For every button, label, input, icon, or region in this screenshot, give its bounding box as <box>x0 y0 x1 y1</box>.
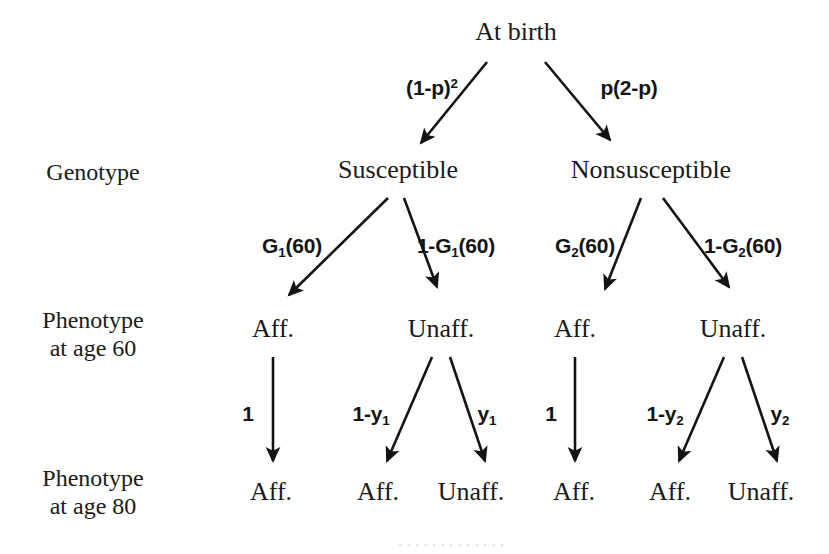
node-at-birth: At birth <box>475 18 557 45</box>
edge-label-text: (1-p) <box>406 76 451 99</box>
edge-label-prefix: G <box>262 234 278 257</box>
edge-label-aff2-stays-aff: 1 <box>545 402 556 426</box>
edge-label-subscript: 2 <box>676 413 683 428</box>
arrow-unaff1-aff <box>387 357 432 461</box>
arrow-unaff2-aff <box>679 357 724 461</box>
stage-label-line-2: at age 60 <box>42 334 143 362</box>
node-phenotype80-aff-2: Aff. <box>357 478 399 505</box>
edge-label-suffix: (60) <box>746 234 783 257</box>
edge-label-suffix: (60) <box>578 234 615 257</box>
edge-label-suffix: (60) <box>285 234 322 257</box>
node-phenotype80-aff-1: Aff. <box>250 478 292 505</box>
edge-label-unaff2-stays-unaff: y2 <box>771 402 790 428</box>
stage-label-phenotype-60: Phenotypeat age 60 <box>42 306 143 363</box>
node-nonsusceptible: Nonsusceptible <box>571 156 731 183</box>
figure-canvas: At birth (1-p)2 p(2-p) Genotype Suscepti… <box>0 0 829 554</box>
scan-artifact-strip: . . . . . . . . . . . . . <box>0 542 829 554</box>
edge-label-text: p(2-p) <box>600 76 657 99</box>
node-phenotype80-aff-4: Aff. <box>649 478 691 505</box>
stage-label-line-2: at age 80 <box>42 492 143 520</box>
edge-label-superscript: 2 <box>451 76 458 91</box>
edge-label-susceptible-to-aff: G1(60) <box>262 234 322 260</box>
node-phenotype60-unaff-2: Unaff. <box>700 315 767 342</box>
node-phenotype60-aff-2: Aff. <box>554 315 596 342</box>
edge-label-prefix: 1-y <box>646 402 676 425</box>
node-phenotype60-aff-1: Aff. <box>252 315 294 342</box>
edge-label-subscript: 1 <box>489 413 496 428</box>
edge-label-unaff2-to-aff: 1-y2 <box>646 402 683 428</box>
node-susceptible: Susceptible <box>338 156 458 183</box>
edge-label-prefix: 1 <box>242 402 253 425</box>
edge-label-subscript: 2 <box>782 413 789 428</box>
stage-label-phenotype-80: Phenotypeat age 80 <box>42 464 143 521</box>
edge-label-nonsusceptible-to-unaff: 1-G2(60) <box>704 234 782 260</box>
arrow-birth-nonsusceptible <box>545 62 610 140</box>
stage-label-genotype: Genotype <box>46 158 139 186</box>
edge-label-suffix: (60) <box>459 234 496 257</box>
edge-label-prefix: y <box>771 402 782 425</box>
scan-artifact-text: . . . . . . . . . . . . . <box>398 542 504 551</box>
edge-label-subscript: 1 <box>382 413 389 428</box>
node-phenotype80-aff-3: Aff. <box>553 478 595 505</box>
edge-label-unaff1-stays-unaff: y1 <box>478 402 497 428</box>
node-phenotype80-unaff-1: Unaff. <box>438 478 505 505</box>
edge-label-susceptible-to-unaff: 1-G1(60) <box>417 234 495 260</box>
edge-label-prefix: 1-G <box>417 234 451 257</box>
stage-label-line-1: Phenotype <box>42 307 143 333</box>
edge-label-subscript: 2 <box>738 245 745 260</box>
edge-label-prefix: G <box>555 234 571 257</box>
arrow-birth-susceptible <box>421 62 487 143</box>
edge-label-nonsusceptible-to-aff: G2(60) <box>555 234 615 260</box>
edge-label-prefix: y <box>478 402 489 425</box>
edge-label-prefix: 1-G <box>704 234 738 257</box>
edge-label-unaff1-to-aff: 1-y1 <box>352 402 389 428</box>
stage-label-line-1: Phenotype <box>42 465 143 491</box>
stage-label-line-1: Genotype <box>46 159 139 185</box>
edge-label-aff1-stays-aff: 1 <box>242 402 253 426</box>
edge-label-subscript: 1 <box>451 245 458 260</box>
edge-label-prefix: 1-y <box>352 402 382 425</box>
node-phenotype60-unaff-1: Unaff. <box>408 315 475 342</box>
edge-label-birth-to-susceptible: (1-p)2 <box>406 76 458 100</box>
edge-label-birth-to-nonsusceptible: p(2-p) <box>600 76 657 100</box>
edge-label-prefix: 1 <box>545 402 556 425</box>
node-phenotype80-unaff-2: Unaff. <box>728 478 795 505</box>
